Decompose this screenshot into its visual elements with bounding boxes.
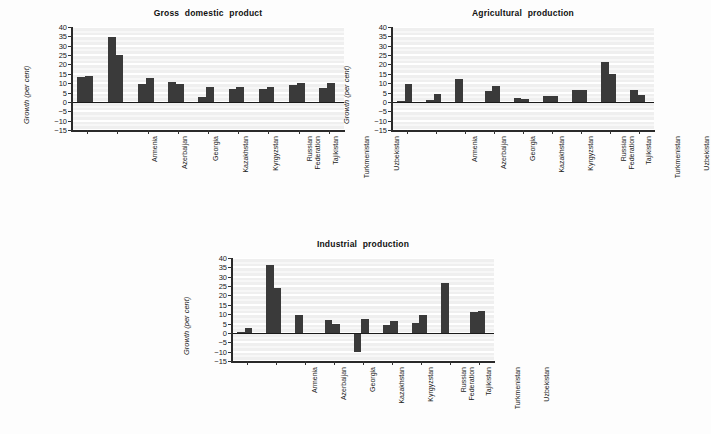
- gridline-minor: [72, 124, 344, 126]
- y-axis-tick-mark: [388, 36, 392, 37]
- y-axis-tick-mark: [228, 267, 232, 268]
- gridline-minor: [392, 68, 654, 70]
- y-axis-tick-label: −5: [208, 338, 227, 347]
- zero-line: [72, 102, 344, 104]
- x-axis-tick-mark: [148, 130, 149, 134]
- y-axis-tick-mark: [388, 130, 392, 131]
- bar: [138, 84, 146, 102]
- zero-line: [392, 102, 654, 104]
- y-axis-tick-label: 20: [368, 60, 387, 69]
- x-axis-tick-label-line: Federation: [314, 136, 322, 196]
- gridline: [232, 258, 494, 259]
- x-axis-tick-label: Turkmenistan: [514, 367, 522, 427]
- y-axis-tick-mark: [68, 111, 72, 112]
- bar: [470, 312, 478, 333]
- gridline: [72, 120, 344, 122]
- x-axis-tick-label-line: Federation: [468, 367, 476, 427]
- x-axis-tick-mark: [552, 130, 553, 134]
- x-axis-tick-mark: [247, 361, 248, 365]
- y-axis-tick-label: 5: [208, 319, 227, 328]
- gridline-minor: [232, 337, 494, 339]
- bar: [361, 319, 369, 333]
- gridline: [392, 45, 654, 47]
- y-axis-tick-label: 0: [48, 97, 67, 106]
- x-axis-tick-mark: [407, 130, 408, 134]
- y-axis-tick-mark: [228, 286, 232, 287]
- x-axis-tick-label: Armenia: [471, 136, 479, 196]
- bar: [325, 320, 333, 333]
- x-axis-tick-label: Tajikistan: [645, 136, 653, 196]
- x-axis-tick-label-line: Kyrgyzstan: [272, 136, 280, 196]
- x-axis-tick-mark: [465, 130, 466, 134]
- bar: [434, 94, 442, 101]
- x-axis-tick-label: Kazakhstan: [558, 136, 566, 196]
- x-axis-tick-label-line: Kyrgyzstan: [427, 367, 435, 427]
- y-axis-tick-label: 35: [208, 263, 227, 272]
- y-axis-line: [391, 27, 393, 131]
- y-axis-tick-mark: [68, 36, 72, 37]
- x-axis-tick-mark: [436, 130, 437, 134]
- y-axis-tick-mark: [228, 342, 232, 343]
- y-axis-tick-mark: [68, 46, 72, 47]
- x-axis-tick-label: Uzbekistan: [703, 136, 711, 196]
- x-axis-tick-label-line: Uzbekistan: [393, 136, 401, 196]
- bar: [168, 82, 176, 102]
- y-axis-tick-mark: [228, 324, 232, 325]
- x-axis-tick-label-line: Azerbaijan: [340, 367, 348, 427]
- y-axis-tick-mark: [388, 111, 392, 112]
- chart-title: Agricultural production: [352, 8, 694, 18]
- y-axis-tick-mark: [388, 55, 392, 56]
- y-axis-tick-mark: [228, 361, 232, 362]
- x-axis-tick-label-line: Uzbekistan: [703, 136, 711, 196]
- x-axis-tick-label: Kyrgyzstan: [427, 367, 435, 427]
- x-axis-tick-label-line: Armenia: [311, 367, 319, 427]
- x-axis-tick-mark: [479, 361, 480, 365]
- y-axis-tick-label: 10: [208, 310, 227, 319]
- x-axis-tick-label-line: Turkmenistan: [363, 136, 371, 196]
- y-axis-tick-mark: [388, 74, 392, 75]
- y-axis-tick-label: 20: [48, 60, 67, 69]
- x-axis-tick-label-line: Russian: [460, 367, 468, 427]
- chart-title: Industrial production: [192, 239, 534, 249]
- zero-line: [232, 333, 494, 335]
- x-axis-tick-label-line: Federation: [628, 136, 636, 196]
- x-axis-tick-label: Kyrgyzstan: [587, 136, 595, 196]
- x-axis-tick-label-line: Tajikistan: [332, 136, 340, 196]
- bar: [229, 89, 237, 102]
- bar: [419, 315, 427, 333]
- x-axis-tick-label-line: Armenia: [151, 136, 159, 196]
- y-axis-tick-mark: [228, 258, 232, 259]
- y-axis-tick-label: −10: [208, 347, 227, 356]
- x-axis-tick-label-line: Georgia: [529, 136, 537, 196]
- bar: [77, 77, 85, 102]
- y-axis-tick-label: 0: [208, 328, 227, 337]
- y-axis-tick-label: 25: [208, 282, 227, 291]
- bar: [295, 315, 303, 333]
- y-axis-tick-label: −15: [208, 357, 227, 366]
- y-axis-tick-label: 30: [208, 272, 227, 281]
- x-axis-tick-label: Armenia: [151, 136, 159, 196]
- gridline-minor: [392, 106, 654, 108]
- bar: [485, 91, 493, 102]
- y-axis-tick-mark: [68, 121, 72, 122]
- gridline: [392, 63, 654, 65]
- y-axis-label: Growth (per cent): [22, 66, 31, 124]
- bar: [274, 288, 282, 333]
- x-axis-tick-label-line: Kyrgyzstan: [587, 136, 595, 196]
- bar: [354, 333, 362, 352]
- y-axis-line: [231, 258, 233, 362]
- bar: [601, 62, 609, 102]
- bar: [206, 87, 214, 102]
- gridline: [232, 351, 494, 353]
- x-axis-tick-mark: [329, 130, 330, 134]
- x-axis-tick-label: Tajikistan: [485, 367, 493, 427]
- bar: [297, 83, 305, 102]
- y-axis-tick-label: 15: [48, 69, 67, 78]
- y-axis-tick-label: 35: [368, 32, 387, 41]
- x-axis-tick-mark: [268, 130, 269, 134]
- x-axis-tick-mark: [523, 130, 524, 134]
- gridline: [72, 110, 344, 112]
- y-axis-tick-mark: [388, 121, 392, 122]
- x-axis-tick-label-line: Armenia: [471, 136, 479, 196]
- y-axis-tick-label: 40: [208, 254, 227, 263]
